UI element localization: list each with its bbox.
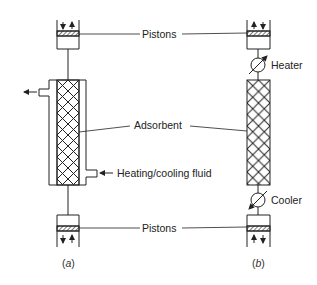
column-b	[247, 80, 270, 193]
label-cooler: Cooler	[271, 194, 302, 206]
label-heater: Heater	[271, 59, 303, 71]
caption-a: (a)	[62, 257, 75, 269]
diagram-graphics	[0, 0, 317, 285]
piston-b-top	[247, 20, 270, 58]
heater-icon	[249, 56, 267, 80]
adsorption-system-diagram: Pistons Heater Adsorbent Heating/cooling…	[0, 0, 317, 285]
piston-a-bottom	[57, 215, 79, 247]
caption-b: (b)	[252, 257, 265, 269]
piston-a-top	[57, 20, 79, 80]
label-adsorbent: Adsorbent	[134, 119, 182, 131]
cooler-icon	[249, 191, 267, 215]
label-pistons-bottom: Pistons	[142, 222, 176, 234]
column-a	[24, 80, 113, 215]
label-fluid: Heating/cooling fluid	[117, 167, 212, 179]
piston-b-bottom	[247, 215, 270, 247]
label-pistons-top: Pistons	[142, 28, 176, 40]
